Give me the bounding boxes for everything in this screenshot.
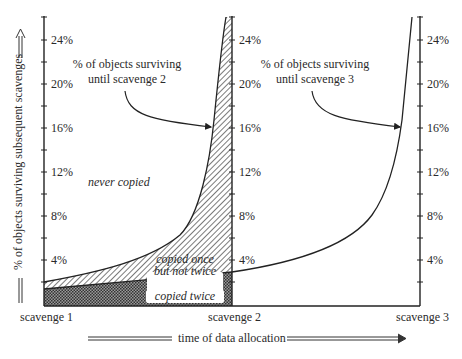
tick-right-8: 8% <box>427 210 443 223</box>
tick-mid-24: 24% <box>239 34 261 47</box>
tick-right-24: 24% <box>427 34 449 47</box>
annotation-arrow-2 <box>125 91 211 127</box>
tick-left-12: 12% <box>51 166 73 179</box>
tick-right-4: 4% <box>427 254 443 267</box>
annotation-scavenge-3-line2: until scavenge 3 <box>260 73 370 86</box>
annotation-scavenge-3-line1: % of objects surviving <box>260 58 370 71</box>
tick-mid-8: 8% <box>239 210 255 223</box>
annotation-scavenge-2-line2: until scavenge 2 <box>72 73 182 86</box>
tick-mid-20: 20% <box>239 78 261 91</box>
tick-left-8: 8% <box>51 210 67 223</box>
annotation-arrow-3 <box>312 91 400 127</box>
tick-left-20: 20% <box>51 78 73 91</box>
region-never-copied: never copied <box>88 176 150 189</box>
tick-right-20: 20% <box>427 78 449 91</box>
tick-left-24: 24% <box>51 34 73 47</box>
x-axis-label: time of data allocation <box>178 332 286 345</box>
x-tick-scavenge-2: scavenge 2 <box>208 311 261 324</box>
tick-left-4: 4% <box>51 254 67 267</box>
tick-mid-16: 16% <box>239 122 261 135</box>
region-copied-once-line2: but not twice <box>145 265 225 278</box>
tick-right-16: 16% <box>427 122 449 135</box>
tick-right-12: 12% <box>427 166 449 179</box>
curve-scavenge-3 <box>232 17 412 272</box>
region-copied-twice: copied twice <box>145 290 225 303</box>
survival-diagram <box>0 0 462 359</box>
annotation-scavenge-2-line1: % of objects surviving <box>72 58 182 71</box>
tick-mid-12: 12% <box>239 166 261 179</box>
tick-mid-4: 4% <box>239 254 255 267</box>
y-axis-label: % of objects surviving subsequent scaven… <box>11 54 26 270</box>
x-tick-scavenge-3: scavenge 3 <box>396 311 449 324</box>
tick-left-16: 16% <box>51 122 73 135</box>
x-tick-scavenge-1: scavenge 1 <box>20 311 73 324</box>
